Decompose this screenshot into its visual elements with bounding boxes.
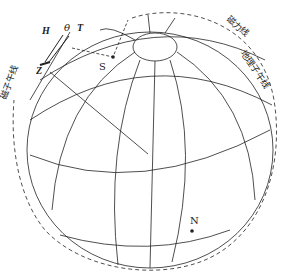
label-T: T [77,23,83,33]
label-N: N [190,216,199,226]
globe-diagram [0,0,286,279]
label-S: S [99,62,106,72]
globe-outline [27,32,273,268]
label-Z: Z [36,66,42,76]
label-H: H [42,26,50,36]
label-theta: θ [64,23,70,33]
